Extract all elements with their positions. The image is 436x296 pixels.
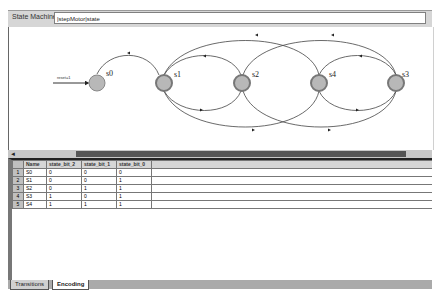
cell-bit2[interactable]: 1	[47, 193, 82, 201]
svg-text:s3: s3	[402, 70, 409, 79]
cell-bit0[interactable]: 1	[117, 177, 152, 185]
cell-name[interactable]: S2	[24, 185, 47, 193]
header-filler	[152, 161, 433, 169]
row-filler	[152, 177, 433, 185]
row-filler	[152, 201, 433, 209]
row-filler	[152, 185, 433, 193]
cell-bit0[interactable]: 1	[117, 185, 152, 193]
state-diagram[interactable]: reset=1 s0 s1	[8, 27, 434, 150]
cell-bit1[interactable]: 0	[82, 193, 117, 201]
cell-bit1[interactable]: 0	[82, 169, 117, 177]
state-machine-field[interactable]: |stepMotor|state	[54, 12, 426, 24]
row-number[interactable]: 2	[13, 177, 24, 185]
cell-bit2[interactable]: 1	[47, 201, 82, 209]
cell-name[interactable]: S0	[24, 169, 47, 177]
state-s2[interactable]: s2	[234, 70, 259, 91]
svg-text:s0: s0	[106, 69, 113, 78]
arrowhead-icon	[127, 52, 130, 55]
row-number[interactable]: 3	[13, 185, 24, 193]
tab-encoding[interactable]: Encoding	[52, 280, 89, 290]
cell-bit0[interactable]: 1	[117, 193, 152, 201]
cell-bit0[interactable]: 1	[117, 201, 152, 209]
cell-bit1[interactable]: 0	[82, 177, 117, 185]
state-s3[interactable]: s3	[388, 70, 409, 91]
state-s0[interactable]: s0	[89, 69, 113, 91]
cell-bit0[interactable]: 0	[117, 169, 152, 177]
scroll-thumb[interactable]	[76, 151, 406, 157]
table-row[interactable]: 3 S2 0 1 1	[13, 185, 433, 193]
cell-bit2[interactable]: 0	[47, 169, 82, 177]
table-row[interactable]: 1 S0 0 0 0	[13, 169, 433, 177]
reset-label: reset=1	[57, 75, 71, 80]
cell-bit1[interactable]: 1	[82, 185, 117, 193]
column-header-state-bit-0[interactable]: state_bit_0	[117, 161, 152, 169]
cell-name[interactable]: S1	[24, 177, 47, 185]
cell-bit2[interactable]: 0	[47, 177, 82, 185]
bottom-tab-bar: Transitions Encoding	[8, 280, 432, 289]
horizontal-scrollbar[interactable]: ◄	[8, 150, 432, 158]
cell-name[interactable]: S4	[24, 201, 47, 209]
row-filler	[152, 193, 433, 201]
encoding-grid: Name state_bit_2 state_bit_1 state_bit_0…	[8, 158, 432, 280]
column-header-state-bit-1[interactable]: state_bit_1	[82, 161, 117, 169]
corner-cell[interactable]	[13, 161, 24, 169]
cell-bit2[interactable]: 0	[47, 185, 82, 193]
column-header-name[interactable]: Name	[24, 161, 47, 169]
svg-text:s1: s1	[174, 70, 181, 79]
svg-text:s4: s4	[329, 70, 336, 79]
svg-text:s2: s2	[252, 70, 259, 79]
row-number[interactable]: 1	[13, 169, 24, 177]
encoding-table: Name state_bit_2 state_bit_1 state_bit_0…	[12, 160, 432, 209]
row-number[interactable]: 4	[13, 193, 24, 201]
state-s4[interactable]: s4	[311, 70, 336, 91]
row-number[interactable]: 5	[13, 201, 24, 209]
column-header-state-bit-2[interactable]: state_bit_2	[47, 161, 82, 169]
state-s1[interactable]: s1	[156, 70, 181, 91]
cell-bit1[interactable]: 1	[82, 201, 117, 209]
scroll-left-icon[interactable]: ◄	[10, 150, 16, 158]
row-filler	[152, 169, 433, 177]
table-row[interactable]: 5 S4 1 1 1	[13, 201, 433, 209]
table-header-row: Name state_bit_2 state_bit_1 state_bit_0	[13, 161, 433, 169]
state-machine-label: State Machine:	[12, 13, 59, 20]
state-diagram-canvas: reset=1 s0 s1	[9, 27, 433, 150]
table-row[interactable]: 2 S1 0 0 1	[13, 177, 433, 185]
state-machine-bar: State Machine: |stepMotor|state	[8, 10, 432, 27]
table-row[interactable]: 4 S3 1 0 1	[13, 193, 433, 201]
cell-name[interactable]: S3	[24, 193, 47, 201]
tab-transitions[interactable]: Transitions	[10, 280, 49, 290]
